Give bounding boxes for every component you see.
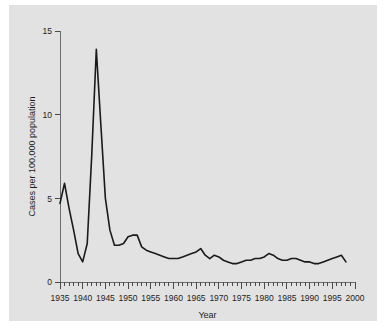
x-tick-label: 1975 — [232, 293, 251, 303]
x-tick-label: 1950 — [119, 293, 138, 303]
x-tick-label: 1990 — [300, 293, 319, 303]
x-tick-label: 1945 — [96, 293, 115, 303]
x-tick-label: 1985 — [277, 293, 296, 303]
y-tick-label: 5 — [47, 194, 52, 204]
y-axis-title: Cases per 100,000 population — [27, 96, 37, 216]
x-tick-label: 1995 — [323, 293, 342, 303]
x-tick-label: 1970 — [209, 293, 228, 303]
line-chart: 0510151935194019451950195519601965197019… — [9, 5, 377, 321]
x-tick-label: 1940 — [73, 293, 92, 303]
x-tick-label: 1965 — [187, 293, 206, 303]
y-tick-label: 10 — [43, 110, 53, 120]
x-tick-label: 1935 — [51, 293, 70, 303]
x-tick-label: 2000 — [346, 293, 365, 303]
y-tick-label: 15 — [43, 26, 53, 36]
chart-figure: 0510151935194019451950195519601965197019… — [9, 5, 377, 321]
data-series-line — [60, 49, 346, 263]
x-tick-label: 1955 — [141, 293, 160, 303]
x-tick-label: 1960 — [164, 293, 183, 303]
x-tick-label: 1980 — [255, 293, 274, 303]
x-axis-title: Year — [198, 310, 216, 320]
y-tick-label: 0 — [47, 277, 52, 287]
